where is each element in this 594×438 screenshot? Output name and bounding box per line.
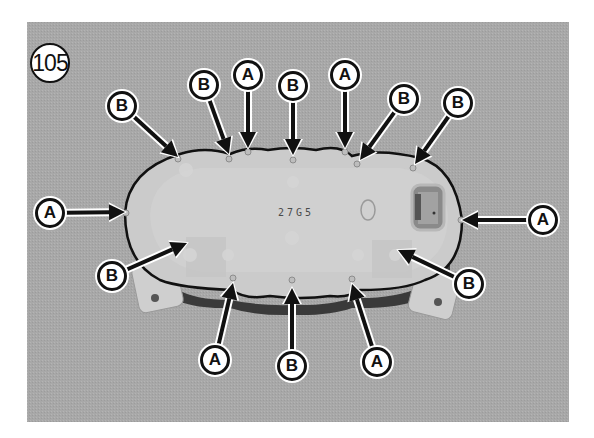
callout-label-a: A [330, 60, 360, 90]
part-number-stamp: 27G5 [278, 207, 314, 218]
callout-label-a: A [200, 345, 230, 375]
callout-label-a: A [362, 347, 392, 377]
callout-label-b: B [389, 84, 419, 114]
callout-label-b: B [443, 88, 473, 118]
callout-label-a: A [35, 198, 65, 228]
callout-label-b: B [107, 91, 137, 121]
figure-number-badge: 105 [30, 43, 70, 83]
callout-label-b: B [189, 70, 219, 100]
callout-label-b: B [278, 71, 308, 101]
callout-label-a: A [233, 60, 263, 90]
callout-label-b: B [277, 351, 307, 381]
callout-label-a: A [528, 205, 558, 235]
callout-label-b: B [97, 261, 127, 291]
connector-socket [412, 185, 444, 230]
callout-label-b: B [454, 269, 484, 299]
